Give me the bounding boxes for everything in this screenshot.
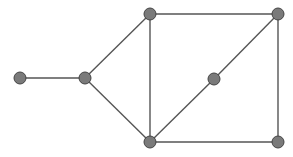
node-D <box>272 8 284 20</box>
node-F <box>144 136 156 148</box>
edges <box>20 14 278 142</box>
node-G <box>272 136 284 148</box>
edge-D-E <box>214 14 278 79</box>
node-B <box>79 72 91 84</box>
graph-diagram <box>0 0 293 157</box>
node-E <box>208 73 220 85</box>
edge-B-F <box>85 78 150 142</box>
node-A <box>14 72 26 84</box>
edge-E-F <box>150 79 214 142</box>
edge-B-C <box>85 14 150 78</box>
node-C <box>144 8 156 20</box>
